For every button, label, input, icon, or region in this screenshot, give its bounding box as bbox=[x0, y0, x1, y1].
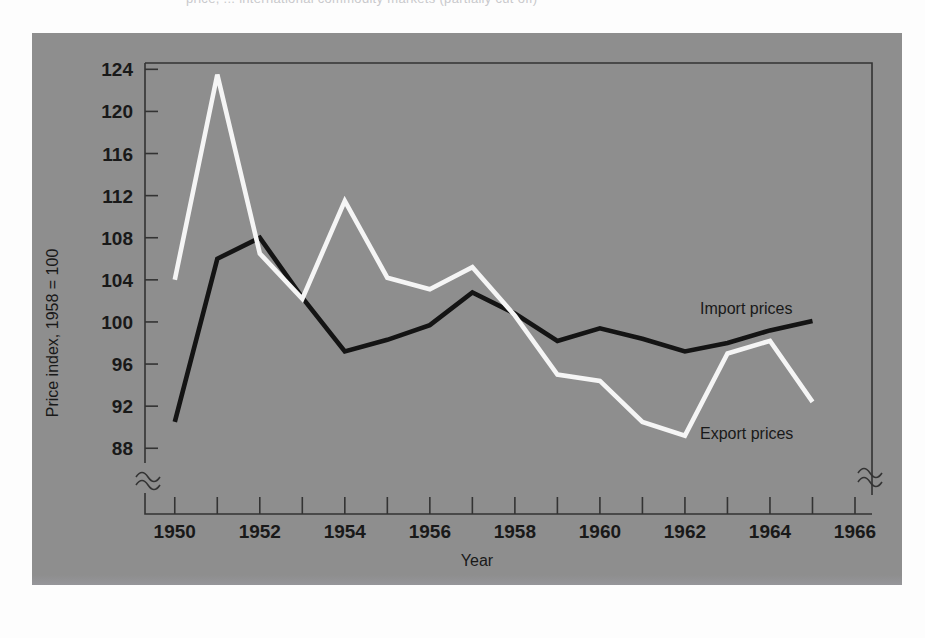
y-tick-label: 120 bbox=[101, 101, 133, 122]
y-axis-break-icon bbox=[136, 473, 160, 482]
plot-frame bbox=[136, 63, 882, 514]
x-tick-label: 1956 bbox=[409, 521, 451, 542]
y-tick-label: 112 bbox=[102, 186, 133, 207]
series-layer bbox=[175, 75, 813, 436]
x-tick-label: 1952 bbox=[239, 521, 281, 542]
y-tick-label: 124 bbox=[101, 59, 133, 80]
x-tick-label: 1966 bbox=[834, 521, 876, 542]
x-axis-break-icon-2 bbox=[858, 478, 882, 487]
export-prices-label: Export prices bbox=[700, 425, 793, 442]
x-axis-title: Year bbox=[461, 552, 494, 569]
y-tick-label: 96 bbox=[112, 354, 133, 375]
y-tick-label: 100 bbox=[101, 312, 133, 333]
x-tick-label: 1962 bbox=[664, 521, 706, 542]
x-tick-label: 1964 bbox=[749, 521, 792, 542]
figure-panel: 889296100104108112116120124 195019521954… bbox=[32, 33, 902, 585]
figure-caption-strip: price, ... international commodity marke… bbox=[0, 0, 925, 16]
x-axis: 195019521954195619581960196219641966 bbox=[154, 497, 877, 542]
y-tick-label: 108 bbox=[101, 228, 133, 249]
y-tick-label: 92 bbox=[112, 396, 133, 417]
line-chart: 889296100104108112116120124 195019521954… bbox=[32, 33, 902, 585]
x-tick-label: 1954 bbox=[324, 521, 367, 542]
x-tick-label: 1958 bbox=[494, 521, 536, 542]
y-tick-label: 104 bbox=[101, 270, 133, 291]
y-axis-break-icon-2 bbox=[136, 481, 160, 490]
y-axis-title: Price index, 1958 = 100 bbox=[44, 249, 61, 418]
figure-caption-text: price, ... international commodity marke… bbox=[186, 0, 537, 6]
x-tick-label: 1950 bbox=[154, 521, 196, 542]
y-axis: 889296100104108112116120124 bbox=[101, 59, 158, 459]
x-axis-break-icon bbox=[858, 469, 882, 478]
y-tick-label: 116 bbox=[102, 144, 133, 165]
y-tick-label: 88 bbox=[112, 438, 133, 459]
import-prices-label: Import prices bbox=[700, 300, 792, 317]
x-tick-label: 1960 bbox=[579, 521, 621, 542]
